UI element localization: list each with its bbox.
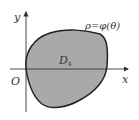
polar-region-diagram: y x O ρ=φ(θ) D4 xyxy=(0,0,139,120)
x-axis-label: x xyxy=(122,73,129,86)
curve-label: ρ=φ(θ) xyxy=(84,20,120,31)
origin-label: O xyxy=(11,75,20,88)
y-axis-label: y xyxy=(13,11,21,24)
